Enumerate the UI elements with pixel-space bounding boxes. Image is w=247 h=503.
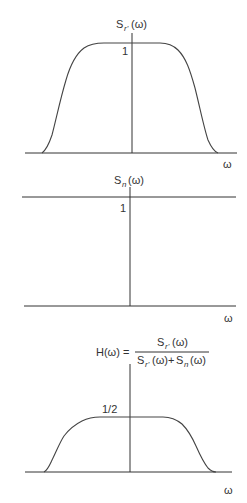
formula-den-main2: S [176,354,183,366]
formula-lhs: H(ω) = [96,346,129,358]
panel-wiener-filter: H(ω) = S r' (ω) S r' (ω)+ S n (ω) 1/2 ω [25,336,233,496]
formula-num-main: S [157,336,164,348]
panel1-title-main: S [116,18,123,30]
panel2-title-arg: (ω) [128,174,144,186]
formula-num-sub: r' [165,342,170,351]
panel3-level-label: 1/2 [102,403,117,415]
panel1-x-label: ω [223,158,232,170]
panel1-title-arg: (ω) [131,18,147,30]
panel2-level-label: 1 [120,202,126,214]
panel1-signal-curve [42,43,218,153]
panel-signal-spectrum: S r' (ω) 1 ω [25,18,237,170]
formula-den-arg1: (ω)+ [152,354,174,366]
formula-den-sub1: r' [145,360,150,369]
panel2-title-main: S [114,174,121,186]
panel2-x-label: ω [224,312,233,324]
formula-num-arg: (ω) [172,336,188,348]
panel-noise-spectrum: S n (ω) 1 ω [22,174,236,324]
formula-den-main1: S [137,354,144,366]
wiener-filter-diagram: S r' (ω) 1 ω S n (ω) 1 ω H(ω) = S r' (ω)… [0,0,247,503]
formula-den-arg2: (ω) [190,354,206,366]
panel2-title-sub: n [122,180,127,189]
panel1-title-sub: r' [124,24,129,33]
formula-den-sub2: n [184,360,189,369]
panel3-x-label: ω [224,484,233,496]
panel1-level-label: 1 [122,45,128,57]
